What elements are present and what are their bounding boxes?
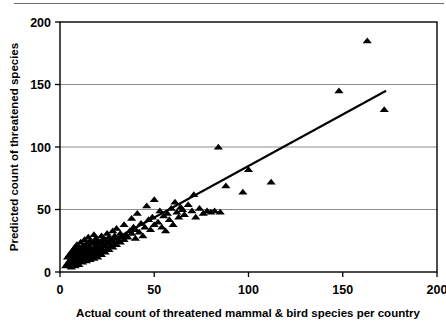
x-tick-label-50: 50 <box>147 283 161 297</box>
x-tick-label-200: 200 <box>427 283 446 297</box>
x-tick-label-0: 0 <box>57 283 64 297</box>
y-tick-label-200: 200 <box>30 16 51 30</box>
x-axis-title: Actual count of threatened mammal & bird… <box>76 307 420 319</box>
y-tick-label-100: 100 <box>30 141 51 155</box>
y-axis-title: Predicted count of threatened species <box>8 43 20 251</box>
x-tick-label-150: 150 <box>332 283 353 297</box>
y-tick-label-0: 0 <box>44 266 51 280</box>
chart-canvas: 050100150200 050100150200 Predicted coun… <box>0 0 446 325</box>
scatter-plot-figure: 050100150200 050100150200 Predicted coun… <box>0 0 446 325</box>
y-tick-label-50: 50 <box>37 203 51 217</box>
page-top-rule <box>14 3 444 4</box>
chart-background <box>0 0 446 325</box>
y-tick-label-150: 150 <box>30 78 51 92</box>
x-tick-label-100: 100 <box>238 283 259 297</box>
